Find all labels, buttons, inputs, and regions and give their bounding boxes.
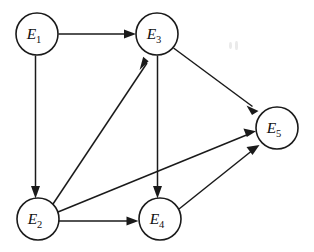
graph-figure: E1 E2 E3 E4 [0, 0, 314, 252]
edge-e3-e4 [153, 56, 162, 199]
node-label-e3-subscript: 3 [156, 34, 161, 45]
arrow-head-e3-e4 [153, 186, 162, 199]
node-e1[interactable]: E1 [16, 13, 58, 55]
arrow-head-e1-e2 [31, 186, 40, 199]
arrow-head-e3-e5 [247, 106, 259, 116]
node-label-e3-base: E [146, 25, 157, 42]
node-e4[interactable]: E4 [139, 198, 181, 240]
node-label-e1-base: E [26, 25, 37, 42]
node-label-e2-base: E [27, 210, 38, 227]
node-label-e4-base: E [149, 210, 160, 227]
arrow-head-e1-e3 [124, 30, 136, 39]
node-label-e5-base: E [266, 119, 277, 136]
node-label-e5-subscript: 5 [276, 128, 281, 139]
graph-canvas: E1 E2 E3 E4 [0, 0, 314, 252]
edge-line-e3-e5 [174, 48, 253, 107]
node-label-e1-subscript: 1 [36, 34, 41, 45]
node-e5[interactable]: E5 [256, 107, 298, 149]
node-e2[interactable]: E2 [17, 198, 59, 240]
edge-e1-e2 [31, 56, 40, 199]
node-label-e4-subscript: 4 [159, 219, 165, 230]
edge-e3-e5 [174, 48, 259, 115]
edge-e1-e3 [59, 30, 137, 39]
edge-e4-e5 [179, 145, 260, 209]
edge-line-e2-e3 [52, 63, 147, 206]
edge-e2-e4 [59, 217, 139, 226]
node-label-e2-subscript: 2 [37, 219, 42, 230]
node-e3[interactable]: E3 [136, 13, 178, 55]
edge-layer [31, 30, 260, 226]
edge-e2-e3 [52, 57, 149, 206]
arrow-head-e2-e4 [127, 217, 139, 226]
